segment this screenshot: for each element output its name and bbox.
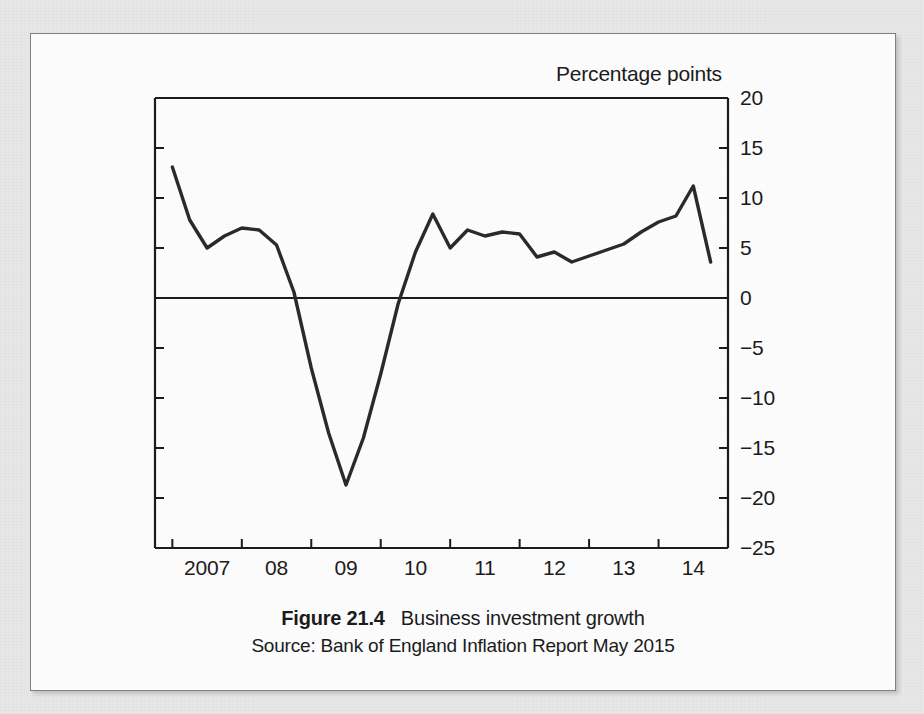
caption-title-text: Business investment growth [401, 607, 645, 629]
caption-source-line: Source: Bank of England Inflation Report… [30, 632, 896, 660]
figure-box [30, 33, 896, 691]
caption-figure-number: Figure 21.4 [281, 607, 384, 629]
figure-caption: Figure 21.4 Business investment growth S… [30, 604, 896, 660]
figure-inner-surface [31, 34, 895, 690]
caption-title-line: Figure 21.4 Business investment growth [30, 604, 896, 632]
